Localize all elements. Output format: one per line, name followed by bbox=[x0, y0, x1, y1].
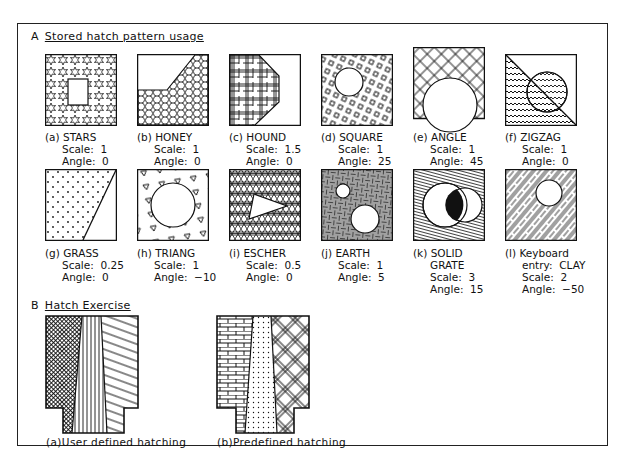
caption-angle: (e) ANGLEScale: 1Angle: 45 bbox=[413, 131, 483, 167]
section-b-heading: Hatch Exercise bbox=[45, 299, 131, 312]
exercise-predefined-shape bbox=[216, 315, 311, 439]
section-a-letter: A bbox=[31, 30, 39, 43]
caption-escher: (i) ESCHERScale: 0.5Angle: 0 bbox=[229, 247, 301, 283]
caption-stars: (a) STARSScale: 1Angle: 0 bbox=[45, 131, 109, 167]
caption-triang: (h) TRIANGScale: 1Angle: −10 bbox=[137, 247, 216, 283]
hatch-tile-zigzag bbox=[505, 54, 577, 126]
caption-keyboard-clay: (l) Keyboardentry: CLAYScale: 2Angle: −5… bbox=[505, 247, 585, 295]
hatch-tile-angle bbox=[413, 47, 485, 119]
caption-grass: (g) GRASSScale: 0.25Angle: 0 bbox=[45, 247, 124, 283]
hatch-tile-triang bbox=[137, 169, 209, 241]
caption-hound: (c) HOUNDScale: 1.5Angle: 0 bbox=[229, 131, 301, 167]
section-a-heading: Stored hatch pattern usage bbox=[45, 30, 204, 43]
caption-earth: (j) EARTHScale: 1Angle: 5 bbox=[321, 247, 385, 283]
exercise-caption-predefined: (b)Predefined hatching bbox=[217, 436, 346, 448]
hatch-tile-earth bbox=[321, 169, 393, 241]
caption-square: (d) SQUAREScale: 1Angle: 25 bbox=[321, 131, 391, 167]
caption-honey: (b) HONEYScale: 1Angle: 0 bbox=[137, 131, 201, 167]
exercise-user-defined-shape bbox=[45, 315, 140, 439]
hatch-tile-clay bbox=[505, 169, 577, 241]
caption-solid-grate: (k) SOLIDGRATEScale: 3Angle: 15 bbox=[413, 247, 483, 295]
section-a-title: AStored hatch pattern usage bbox=[31, 30, 204, 43]
hatch-tile-solid-grate bbox=[413, 169, 485, 241]
exercise-caption-user-defined: (a)User defined hatching bbox=[46, 436, 186, 448]
caption-zigzag: (f) ZIGZAGScale: 1Angle: 0 bbox=[505, 131, 569, 167]
hatch-tile-honey bbox=[137, 54, 209, 126]
hatch-tile-grass bbox=[45, 169, 117, 241]
section-b-title: BHatch Exercise bbox=[31, 299, 131, 312]
hatch-tile-square bbox=[321, 54, 393, 126]
section-b-letter: B bbox=[31, 299, 39, 312]
hatch-tile-hound bbox=[229, 54, 301, 126]
hatch-tile-stars bbox=[45, 54, 117, 126]
hatch-tile-escher bbox=[229, 169, 301, 241]
